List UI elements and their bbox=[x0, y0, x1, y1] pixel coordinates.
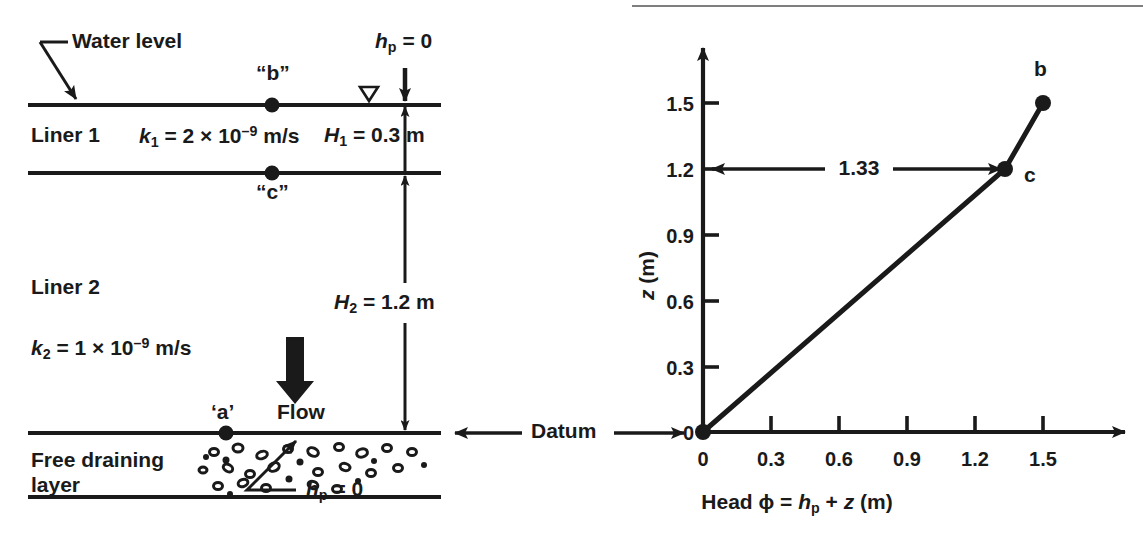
hp-top-label: hp = 0 bbox=[375, 30, 432, 54]
chart-y-tick-label-5: 1.5 bbox=[624, 93, 694, 116]
chart-x-axis-plus: + bbox=[820, 490, 844, 513]
point-b-marker bbox=[265, 98, 280, 113]
liner2-k-symbol: k bbox=[31, 336, 43, 359]
chart-x-tick-label-0: 0 bbox=[673, 448, 733, 471]
chart-x-axis-units: (m) bbox=[854, 490, 893, 513]
h1-label: H1 = 0.3 m bbox=[324, 124, 425, 148]
point-c-marker bbox=[265, 166, 280, 181]
liner1-k-value: = 2 × 10 bbox=[159, 124, 242, 147]
chart-x-axis-z-symbol: z bbox=[844, 490, 855, 513]
water-level-leader-arrow bbox=[40, 42, 76, 99]
chart-dimension-value: 1.33 bbox=[839, 157, 880, 178]
free-draining-label-line2: layer bbox=[31, 474, 80, 495]
chart-y-tick-label-1: 0.3 bbox=[624, 357, 694, 380]
water-level-label: Water level bbox=[72, 30, 182, 51]
liner2-k-value: = 1 × 10 bbox=[51, 336, 134, 359]
datum-label: Datum bbox=[531, 420, 596, 441]
hp-bottom-rest: = 0 bbox=[328, 477, 364, 500]
chart-y-ticks bbox=[703, 103, 719, 367]
hp-bottom-subscript: p bbox=[319, 487, 328, 503]
chart-x-axis-title: Head ϕ = hp + z (m) bbox=[701, 491, 892, 515]
chart-x-tick-label-4: 1.2 bbox=[945, 448, 1005, 471]
liner1-k-units: m/s bbox=[257, 124, 299, 147]
chart-y-tick-label-4: 1.2 bbox=[624, 159, 694, 182]
chart-x-tick-label-5: 1.5 bbox=[1013, 448, 1073, 471]
chart-x-tick-label-2: 0.6 bbox=[809, 448, 869, 471]
chart-x-tick-label-3: 0.9 bbox=[877, 448, 937, 471]
liner2-k-units: m/s bbox=[149, 336, 191, 359]
h2-subscript: 2 bbox=[349, 300, 357, 316]
liner2-name-label: Liner 2 bbox=[31, 276, 100, 297]
chart-y-axis-units: (m) bbox=[635, 251, 658, 290]
chart-y-tick-label-3: 0.9 bbox=[624, 225, 694, 248]
h1-symbol: H bbox=[324, 123, 339, 146]
liner2-k-subscript: 2 bbox=[43, 346, 51, 362]
liner1-name-label: Liner 1 bbox=[31, 124, 100, 145]
h1-value: = 0.3 m bbox=[347, 123, 425, 146]
chart-point-a bbox=[695, 424, 711, 440]
chart-point-b bbox=[1035, 95, 1051, 111]
h2-symbol: H bbox=[334, 290, 349, 313]
h2-value: = 1.2 m bbox=[357, 290, 435, 313]
chart-y-tick-label-0: 0 bbox=[624, 422, 694, 445]
h2-label: H2 = 1.2 m bbox=[334, 291, 435, 315]
hp-top-rest: = 0 bbox=[397, 29, 433, 52]
hp-bottom-label: hp = 0 bbox=[306, 478, 363, 502]
point-a-marker bbox=[219, 426, 234, 441]
figure-root: Water level “b” “c” ‘a’ hp = 0 Liner 1 k… bbox=[0, 0, 1143, 541]
chart-point-b-label: b bbox=[1034, 58, 1047, 79]
flow-label: Flow bbox=[277, 401, 325, 422]
h1-subscript: 1 bbox=[339, 133, 347, 149]
chart-y-axis-title: z (m) bbox=[586, 262, 706, 288]
chart-y-axis-symbol: z bbox=[635, 289, 658, 300]
chart-x-ticks bbox=[771, 416, 1043, 432]
chart-point-c-label: c bbox=[1024, 164, 1036, 185]
hp-top-symbol: h bbox=[375, 29, 388, 52]
liner2-k-exponent: –9 bbox=[134, 335, 150, 351]
water-table-triangle-icon bbox=[360, 87, 378, 101]
point-a-label: ‘a’ bbox=[211, 401, 234, 422]
hp-top-subscript: p bbox=[388, 39, 397, 55]
chart-x-tick-label-1: 0.3 bbox=[741, 448, 801, 471]
liner1-k-symbol: k bbox=[139, 124, 151, 147]
liner1-k-exponent: –9 bbox=[242, 123, 258, 139]
liner2-k-label: k2 = 1 × 10–9 m/s bbox=[31, 336, 191, 361]
liner1-k-subscript: 1 bbox=[151, 134, 159, 150]
hp-bottom-symbol: h bbox=[306, 477, 319, 500]
point-b-label: “b” bbox=[256, 62, 290, 83]
chart-x-axis-head: Head ϕ = bbox=[701, 490, 798, 513]
free-draining-label-line1: Free draining bbox=[31, 449, 164, 470]
liner1-k-label: k1 = 2 × 10–9 m/s bbox=[139, 124, 299, 149]
chart-y-axis-title-text: z (m) bbox=[636, 251, 657, 300]
flow-arrow bbox=[276, 337, 314, 404]
chart-head-profile-line bbox=[703, 103, 1043, 432]
point-c-label: “c” bbox=[256, 181, 289, 202]
chart-x-axis-h-symbol: h bbox=[798, 490, 811, 513]
